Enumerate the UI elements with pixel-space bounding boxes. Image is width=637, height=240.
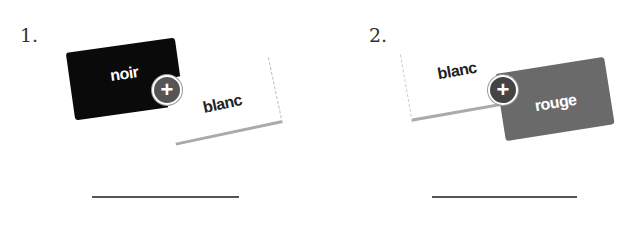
exercise-number: 2. <box>369 24 387 46</box>
plus-icon: + <box>488 75 518 105</box>
swatch-label: rouge <box>533 91 577 115</box>
answer-blank-line[interactable] <box>92 196 239 198</box>
color-swatch-blanc: blanc <box>162 57 283 145</box>
plus-icon: + <box>152 75 182 105</box>
swatch-label: blanc <box>436 58 478 83</box>
swatch-label: blanc <box>201 91 243 117</box>
exercise-number: 1. <box>20 24 38 46</box>
answer-blank-line[interactable] <box>432 196 577 198</box>
swatch-label: noir <box>109 63 139 85</box>
